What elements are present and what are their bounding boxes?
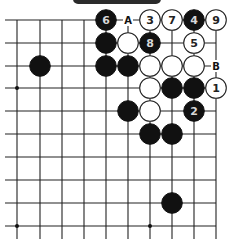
black-stone [118, 56, 139, 77]
black-stone-move-8: 8 [140, 33, 161, 54]
black-stone [96, 56, 117, 77]
white-stone [162, 56, 183, 77]
white-stone [140, 101, 161, 122]
board-grid [5, 20, 216, 239]
white-stone [140, 78, 161, 99]
move-number: 2 [190, 105, 198, 118]
white-stone [140, 56, 161, 77]
white-stone [118, 33, 139, 54]
move-number: 8 [146, 37, 154, 50]
go-board: AB 637498512 [0, 0, 232, 239]
black-stone [140, 124, 161, 145]
star-point [148, 224, 152, 228]
black-stone-move-6: 6 [96, 10, 117, 31]
star-point [15, 224, 19, 228]
white-stone-move-7: 7 [162, 10, 183, 31]
move-number: 1 [212, 82, 220, 95]
move-number: 5 [190, 37, 198, 50]
black-stone [118, 101, 139, 122]
black-stone [96, 33, 117, 54]
white-stone [184, 56, 205, 77]
black-stone-move-4: 4 [184, 10, 205, 31]
move-number: 3 [146, 14, 154, 27]
white-stone-move-1: 1 [206, 78, 227, 99]
black-stone [30, 56, 51, 77]
white-stone-move-3: 3 [140, 10, 161, 31]
white-stone-move-5: 5 [184, 33, 205, 54]
move-number: 6 [102, 14, 110, 27]
black-stone [162, 193, 183, 214]
black-stone-move-2: 2 [184, 101, 205, 122]
move-number: 9 [212, 14, 220, 27]
move-number: 4 [190, 14, 198, 27]
point-label-b: B [212, 61, 220, 72]
star-point [15, 86, 19, 90]
white-stone-move-9: 9 [206, 10, 227, 31]
black-stone [162, 124, 183, 145]
move-number: 7 [168, 14, 176, 27]
point-label-a: A [124, 15, 132, 26]
black-stone [162, 78, 183, 99]
black-stone [184, 78, 205, 99]
